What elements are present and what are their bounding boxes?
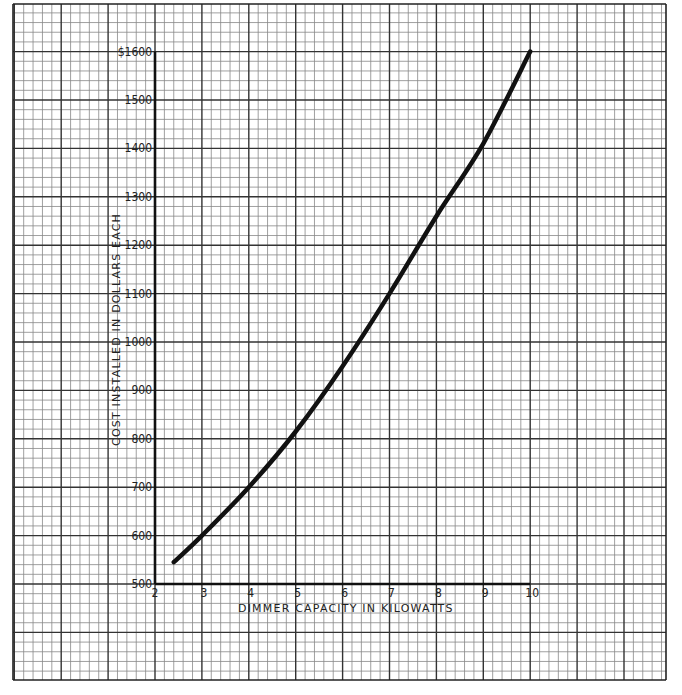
y-tick-label: 600 bbox=[131, 529, 152, 543]
x-tick-label: 4 bbox=[247, 586, 254, 600]
x-axis-tick-labels: 2345678910 bbox=[152, 586, 540, 600]
y-tick-label: 500 bbox=[131, 577, 152, 591]
x-tick-label: 8 bbox=[435, 586, 442, 600]
x-tick-label: 6 bbox=[341, 586, 348, 600]
y-tick-label: 700 bbox=[131, 480, 152, 494]
y-tick-label: $1600 bbox=[118, 45, 152, 59]
y-tick-label: 1200 bbox=[125, 238, 153, 252]
x-tick-label: 10 bbox=[525, 586, 539, 600]
x-tick-label: 9 bbox=[482, 586, 489, 600]
x-tick-label: 3 bbox=[200, 586, 207, 600]
y-tick-label: 1500 bbox=[125, 93, 153, 107]
y-tick-label: 1400 bbox=[125, 141, 153, 155]
chart: 500600700800900100011001200130014001500$… bbox=[0, 0, 682, 695]
y-tick-label: 1100 bbox=[125, 287, 153, 301]
x-tick-label: 7 bbox=[388, 586, 395, 600]
y-tick-label: 1300 bbox=[125, 190, 153, 204]
x-tick-label: 5 bbox=[294, 586, 301, 600]
x-tick-label: 2 bbox=[152, 586, 159, 600]
y-tick-label: 900 bbox=[131, 383, 152, 397]
x-axis-label: DIMMER CAPACITY IN KILOWATTS bbox=[238, 602, 454, 615]
y-axis-label: COST INSTALLED IN DOLLARS EACH bbox=[110, 213, 123, 446]
y-tick-label: 1000 bbox=[125, 335, 153, 349]
y-tick-label: 800 bbox=[131, 432, 152, 446]
